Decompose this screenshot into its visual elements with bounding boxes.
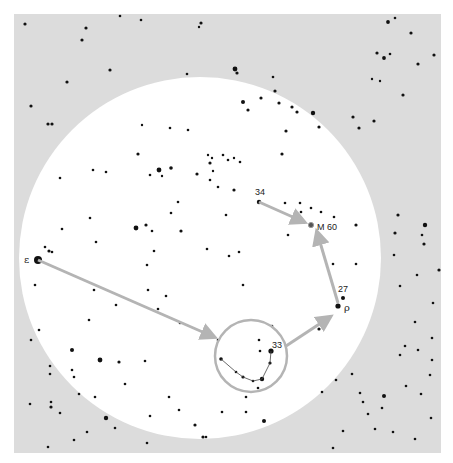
- star: [374, 428, 377, 431]
- star: [134, 226, 139, 231]
- star: [199, 21, 202, 24]
- star: [382, 56, 386, 60]
- star-chart: ε ρ 27 33 34 M 60: [0, 0, 453, 463]
- star: [320, 211, 323, 214]
- star: [61, 228, 64, 231]
- star: [161, 175, 163, 177]
- star: [333, 216, 336, 219]
- star: [332, 447, 335, 450]
- star: [34, 284, 37, 287]
- star: [136, 152, 139, 155]
- star: [198, 26, 200, 28]
- star: [422, 242, 425, 245]
- star: [46, 122, 49, 125]
- star: [357, 126, 360, 129]
- star: [335, 303, 340, 308]
- star: [295, 110, 298, 113]
- label-rho: ρ: [344, 302, 350, 313]
- star: [401, 93, 404, 96]
- star: [375, 51, 378, 54]
- star: [355, 263, 358, 266]
- star: [420, 393, 423, 396]
- star: [233, 157, 235, 159]
- star: [169, 127, 172, 130]
- star: [157, 168, 162, 173]
- star: [300, 211, 303, 214]
- star: [246, 108, 249, 111]
- star: [392, 431, 395, 434]
- label-27: 27: [338, 284, 348, 294]
- star: [208, 161, 211, 164]
- star: [332, 263, 335, 266]
- star: [70, 348, 74, 352]
- star: [187, 129, 190, 132]
- star: [341, 296, 345, 300]
- star: [49, 365, 52, 368]
- star: [245, 411, 248, 414]
- star: [88, 319, 91, 322]
- star: [47, 249, 50, 252]
- star: [272, 76, 275, 79]
- star: [93, 289, 96, 292]
- star: [149, 174, 152, 177]
- star: [212, 170, 214, 172]
- star: [287, 234, 290, 237]
- star: [258, 339, 261, 342]
- star: [233, 67, 238, 72]
- star: [277, 101, 280, 104]
- star: [393, 231, 396, 234]
- star: [108, 68, 111, 71]
- star: [437, 268, 440, 271]
- star: [317, 125, 320, 128]
- star: [170, 212, 173, 215]
- star: [414, 438, 417, 441]
- star: [228, 255, 231, 258]
- star: [273, 89, 276, 92]
- star: [284, 129, 287, 132]
- label-epsilon: ε: [24, 254, 29, 265]
- star: [47, 446, 50, 449]
- star: [416, 274, 419, 277]
- star: [335, 379, 338, 382]
- star: [217, 186, 220, 189]
- star: [235, 71, 238, 74]
- star: [242, 284, 245, 287]
- star: [409, 31, 412, 34]
- star: [262, 419, 266, 423]
- star: [44, 246, 47, 249]
- star: [140, 19, 143, 22]
- star: [280, 152, 283, 155]
- star: [141, 124, 143, 126]
- star: [50, 122, 53, 125]
- star: [284, 202, 287, 205]
- star: [195, 172, 198, 175]
- star: [201, 435, 204, 438]
- star: [49, 373, 52, 376]
- star: [421, 234, 424, 237]
- star: [241, 100, 245, 104]
- star: [151, 230, 154, 233]
- star: [299, 202, 302, 205]
- star: [71, 369, 74, 372]
- star: [167, 453, 170, 456]
- star: [414, 321, 417, 324]
- star: [73, 376, 76, 379]
- star: [393, 254, 396, 257]
- star: [169, 166, 173, 170]
- star: [144, 360, 147, 363]
- star: [147, 289, 150, 292]
- star: [239, 161, 242, 164]
- star: [114, 427, 117, 430]
- star: [95, 241, 98, 244]
- star: [432, 53, 435, 56]
- star: [94, 396, 97, 399]
- star: [146, 264, 149, 267]
- star: [431, 359, 434, 362]
- star: [92, 169, 95, 172]
- star: [310, 207, 313, 210]
- star: [367, 413, 370, 416]
- star: [157, 308, 160, 311]
- star: [381, 407, 384, 410]
- star: [386, 20, 390, 24]
- star: [371, 78, 373, 80]
